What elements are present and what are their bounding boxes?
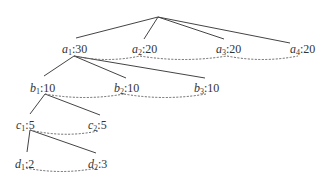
node-c1: c1:5 <box>16 119 35 131</box>
node-a1: a1:30 <box>62 43 87 55</box>
node-value: 10 <box>127 81 139 95</box>
edges-layer <box>0 0 331 190</box>
node-a3: a3:20 <box>216 43 241 55</box>
node-value: 2 <box>28 157 34 171</box>
node-c2: c2:5 <box>88 119 107 131</box>
edge-a1-b1 <box>44 56 74 76</box>
node-value: 5 <box>29 118 35 132</box>
edge-root-a1 <box>76 17 158 38</box>
node-value: 30 <box>75 42 87 56</box>
node-value: 10 <box>207 81 219 95</box>
edge-c1-d1 <box>27 130 30 152</box>
node-d2: d2:3 <box>88 158 107 170</box>
node-value: 20 <box>303 42 315 56</box>
sibling-link-a2-a3 <box>140 56 227 60</box>
tree-edges <box>27 17 290 153</box>
sibling-links <box>26 56 298 172</box>
sibling-link-b1-b2 <box>45 94 124 98</box>
node-d1: d1:2 <box>15 158 34 170</box>
edge-b1-c1 <box>30 94 45 114</box>
node-value: 20 <box>229 42 241 56</box>
node-b2: b2:10 <box>114 82 139 94</box>
node-a2: a2:20 <box>132 43 157 55</box>
sibling-link-a3-a4 <box>227 56 298 60</box>
node-value: 5 <box>101 118 107 132</box>
sibling-link-d1-d2 <box>26 168 97 172</box>
node-a4: a4:20 <box>290 43 315 55</box>
node-value: 20 <box>145 42 157 56</box>
node-value: 3 <box>101 157 107 171</box>
edge-root-a4 <box>158 17 290 43</box>
tree-diagram: a1:30a2:20a3:20a4:20b1:10b2:10b3:10c1:5c… <box>0 0 331 190</box>
node-b1: b1:10 <box>30 82 55 94</box>
node-value: 10 <box>43 81 55 95</box>
node-b3: b3:10 <box>194 82 219 94</box>
